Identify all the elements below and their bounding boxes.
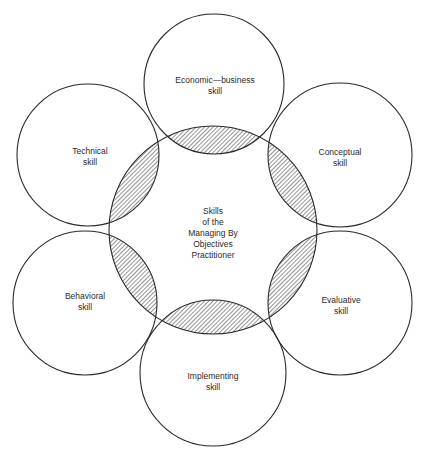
label-line: skill: [175, 86, 254, 97]
label-technical: Technical skill: [72, 146, 107, 168]
label-implementing: Implementing skill: [187, 371, 238, 393]
center-line-2: of the: [188, 217, 238, 228]
label-line: skill: [321, 306, 360, 317]
label-behavioral: Behavioral skill: [65, 291, 105, 313]
center-line-1: Skills: [188, 206, 238, 217]
center-line-5: Practitioner: [188, 250, 238, 261]
label-line: skill: [65, 302, 105, 313]
label-economic-business: Economic—business skill: [175, 75, 254, 97]
center-line-4: Objectives: [188, 239, 238, 250]
label-line: Conceptual: [318, 147, 361, 158]
label-evaluative: Evaluative skill: [321, 295, 360, 317]
label-line: skill: [187, 382, 238, 393]
label-line: skill: [318, 158, 361, 169]
label-line: Behavioral: [65, 291, 105, 302]
center-label: Skills of the Managing By Objectives Pra…: [188, 206, 238, 261]
center-line-3: Managing By: [188, 228, 238, 239]
label-line: skill: [72, 157, 107, 168]
label-line: Evaluative: [321, 295, 360, 306]
label-conceptual: Conceptual skill: [318, 147, 361, 169]
label-line: Implementing: [187, 371, 238, 382]
label-line: Technical: [72, 146, 107, 157]
label-line: Economic—business: [175, 75, 254, 86]
